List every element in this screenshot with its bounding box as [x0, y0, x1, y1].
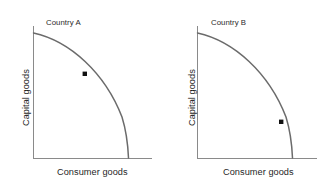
- production-point-marker: [279, 120, 283, 124]
- figure-canvas: Country A Capital goods Consumer goods C…: [0, 0, 333, 190]
- y-axis-label: Capital goods: [187, 69, 197, 126]
- chart-panel-country-b: Country B Capital goods Consumer goods: [166, 0, 333, 190]
- ppf-curve: [198, 33, 293, 158]
- x-axis-label: Consumer goods: [57, 167, 128, 177]
- ppf-curve: [34, 33, 129, 158]
- country-label: Country B: [211, 19, 246, 28]
- x-axis-label: Consumer goods: [223, 167, 294, 177]
- country-label: Country A: [46, 19, 81, 28]
- production-point-marker: [83, 72, 87, 76]
- y-axis-label: Capital goods: [21, 69, 31, 126]
- chart-panel-country-a: Country A Capital goods Consumer goods: [0, 0, 167, 190]
